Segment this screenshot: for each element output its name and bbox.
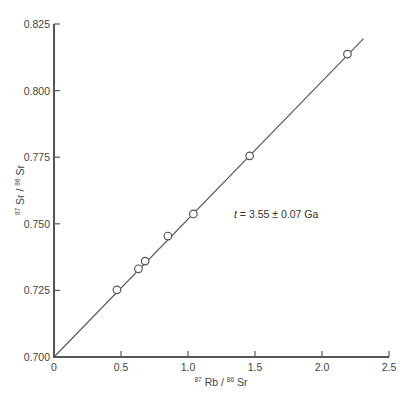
isochron-line [54, 39, 364, 357]
x-tick-label: 2.0 [315, 361, 330, 373]
axes [53, 24, 389, 358]
data-point [344, 50, 352, 58]
x-tick-label: 0.5 [114, 361, 129, 373]
x-tick-label: 1.0 [181, 361, 196, 373]
y-tick-label: 0.775 [24, 151, 50, 163]
x-tick-label: 2.5 [382, 361, 397, 373]
data-point [164, 232, 172, 240]
x-axis-label: 87 Rb / 86 Sr [195, 376, 248, 388]
data-point [141, 257, 149, 265]
isochron-chart: 00.51.01.52.02.50.7000.7250.7500.7750.80… [0, 0, 404, 398]
y-axis-label: 87 Sr / 86 Sr [14, 164, 26, 215]
y-tick-label: 0.700 [24, 351, 50, 363]
y-tick-label: 0.825 [24, 18, 50, 30]
y-tick-label: 0.750 [24, 218, 50, 230]
data-point [135, 265, 143, 273]
y-tick-label: 0.725 [24, 284, 50, 296]
y-tick-label: 0.800 [24, 85, 50, 97]
x-tick-label: 1.5 [248, 361, 263, 373]
data-point [190, 210, 198, 218]
data-point [113, 286, 121, 294]
ticks: 00.51.01.52.02.50.7000.7250.7500.7750.80… [24, 18, 397, 373]
x-tick-label: 0 [51, 361, 57, 373]
age-annotation: t = 3.55 ± 0.07 Ga [234, 208, 318, 220]
data-points [113, 50, 351, 293]
data-point [246, 152, 254, 160]
